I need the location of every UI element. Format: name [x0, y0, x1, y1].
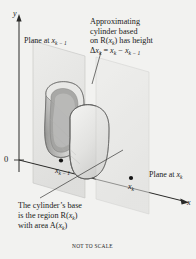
tick-label-sub: k − 1 [59, 170, 71, 176]
tick-label-sub: k [132, 186, 134, 192]
annotation-approximating-cylinder: Approximating cylinder based on R(xk) ha… [90, 17, 190, 57]
annotation-bottom-line-2-b: ) [75, 211, 78, 220]
equals-sign: = [101, 46, 110, 55]
x-axis-label: x [187, 198, 191, 207]
plane-right-label: Plane at xk [149, 170, 183, 180]
rhs-sub-2: k − 1 [129, 50, 141, 56]
tick-dot-x-k [129, 176, 133, 180]
annotation-top-line-4: Δxk = xk − xk − 1 [90, 46, 190, 56]
tick-dot-x-k-minus-1 [59, 158, 63, 162]
annotation-top-line-3-b: ) has height [115, 36, 153, 45]
plane-right-label-text: Plane at [149, 170, 177, 179]
plane-left-label-sub: k − 1 [55, 40, 67, 46]
annotation-top-line-3: on R(xk) has height [90, 36, 190, 46]
tick-label-x-k-minus-1: xk − 1 [55, 166, 70, 176]
plane-left-label: Plane at xk − 1 [24, 36, 67, 46]
y-axis [16, 14, 21, 172]
tick-label-x-k: xk [128, 182, 134, 192]
annotation-bottom-line-2-a: is the region R( [18, 211, 69, 220]
minus-sign: − [116, 46, 125, 55]
not-to-scale-caption: NOT TO SCALE [72, 243, 113, 249]
annotation-top-line-2: cylinder based [90, 27, 190, 37]
plane-right-label-sub: k [180, 174, 182, 180]
annotation-bottom-line-3: with area A(xk) [18, 221, 122, 231]
annotation-bottom-line-1: The cylinder’s base [18, 201, 122, 211]
calculus-figure-approximating-cylinder: y x 0 Plane at xk − 1 Plane at xk xk − 1… [0, 0, 196, 259]
annotation-bottom-line-3-a: with area A( [18, 221, 58, 230]
y-axis-label: y [13, 9, 17, 18]
annotation-bottom-line-3-b: ) [65, 221, 68, 230]
annotation-cylinder-base: The cylinder’s base is the region R(xk) … [18, 201, 122, 231]
origin-label: 0 [4, 154, 8, 164]
plane-left-label-text: Plane at [24, 36, 52, 45]
cutting-plane-right [96, 57, 149, 214]
annotation-top-line-1: Approximating [90, 17, 190, 27]
annotation-top-line-3-a: on R( [90, 36, 108, 45]
annotation-bottom-line-2: is the region R(xk) [18, 211, 122, 221]
